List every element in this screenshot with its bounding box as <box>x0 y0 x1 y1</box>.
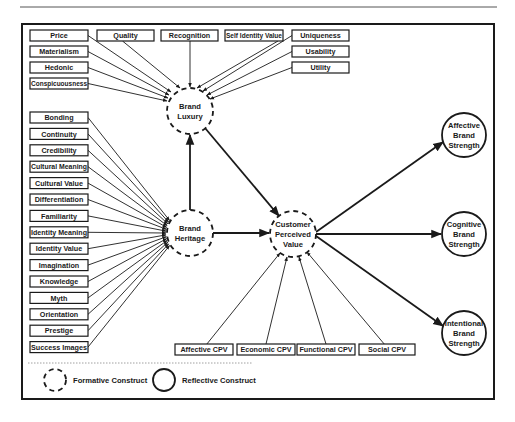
indicator-label: Prestige <box>45 326 73 335</box>
construct-label: Intentional <box>445 319 483 328</box>
indicator-box-conspicuousness: Conspicuousness <box>30 78 88 89</box>
indicator-label: Utility <box>311 63 331 72</box>
indicator-box-identity-meaning: Identity Meaning <box>30 227 88 238</box>
indicator-label: Usability <box>306 47 336 56</box>
construct-label: Affective <box>448 121 480 130</box>
indicator-label: Success Images <box>31 343 87 352</box>
indicator-box-imagination: Imagination <box>30 260 88 271</box>
indicator-label: Bonding <box>44 113 73 122</box>
construct-customer-perceived-value: CustomerPerceivedValue <box>270 211 316 257</box>
indicator-box-cultural-meaning: Cultural Meaning <box>30 161 88 172</box>
indicator-box-self-identity-value: Self Identity Value <box>225 30 283 41</box>
indicator-box-social-cpv: Social CPV <box>359 344 415 355</box>
indicator-label: Price <box>50 31 68 40</box>
construct-cognitive-brand-strength: CognitiveBrandStrength <box>442 212 486 256</box>
indicator-label: Materialism <box>39 47 79 56</box>
indicator-label: Social CPV <box>368 345 406 354</box>
construct-label: Cognitive <box>447 220 482 229</box>
construct-label: Strength <box>448 240 480 249</box>
indicator-label: Conspicuousness <box>31 79 87 88</box>
construct-label: Brand <box>179 102 201 111</box>
indicator-label: Differentiation <box>35 195 84 204</box>
indicator-label: Knowledge <box>40 277 78 286</box>
indicator-label: Orientation <box>40 310 78 319</box>
indicator-box-hedonic: Hedonic <box>30 62 88 73</box>
construct-intentional-brand-strength: IntentionalBrandStrength <box>442 311 486 355</box>
construct-label: Customer <box>275 220 310 229</box>
reflective-construct-legend-icon <box>153 369 175 391</box>
construct-label: Value <box>283 240 303 249</box>
indicator-label: Affective CPV <box>180 345 227 354</box>
construct-label: Heritage <box>175 234 205 243</box>
indicator-label: Recognition <box>169 31 211 40</box>
formative-construct-legend-icon <box>44 369 66 391</box>
indicator-box-differentiation: Differentiation <box>30 194 88 205</box>
indicator-box-utility: Utility <box>292 62 349 73</box>
indicator-box-familiarity: Familiarity <box>30 210 88 221</box>
indicator-label: Functional CPV <box>299 345 352 354</box>
indicator-label: Credibility <box>41 146 76 155</box>
indicator-label: Cultural Meaning <box>31 162 87 171</box>
indicator-box-knowledge: Knowledge <box>30 276 88 287</box>
construct-label: Strength <box>448 339 480 348</box>
construct-brand-heritage: BrandHeritage <box>167 210 213 256</box>
construct-brand-luxury: BrandLuxury <box>167 88 213 134</box>
construct-label: Strength <box>448 141 480 150</box>
indicator-label: Familiarity <box>41 212 77 221</box>
indicator-label: Identity Value <box>36 244 82 253</box>
indicator-label: Uniqueness <box>300 31 341 40</box>
indicator-label: Self Identity Value <box>226 31 282 40</box>
indicator-box-cultural-value: Cultural Value <box>30 178 88 189</box>
indicator-box-bonding: Bonding <box>30 112 88 123</box>
indicator-box-myth: Myth <box>30 292 88 303</box>
construct-label: Brand <box>453 329 475 338</box>
structural-model-diagram: PriceMaterialismHedonicConspicuousnessQu… <box>0 0 515 422</box>
construct-label: Brand <box>453 131 475 140</box>
indicator-box-continuity: Continuity <box>30 128 88 139</box>
indicator-box-price: Price <box>30 30 88 41</box>
indicator-label: Identity Meaning <box>31 228 87 237</box>
construct-label: Brand <box>453 230 475 239</box>
construct-label: Perceived <box>275 230 311 239</box>
reflective-construct-legend-label: Reflective Construct <box>182 376 256 385</box>
indicator-label: Economic CPV <box>240 345 291 354</box>
indicator-box-functional-cpv: Functional CPV <box>297 344 355 355</box>
indicator-box-economic-cpv: Economic CPV <box>237 344 295 355</box>
indicator-box-identity-value: Identity Value <box>30 243 88 254</box>
indicator-label: Myth <box>51 294 68 303</box>
indicator-box-uniqueness: Uniqueness <box>292 30 349 41</box>
indicator-label: Continuity <box>41 130 77 139</box>
indicator-box-usability: Usability <box>292 46 349 57</box>
formative-construct-legend-label: Formative Construct <box>73 376 148 385</box>
indicator-box-recognition: Recognition <box>161 30 218 41</box>
indicator-box-success-images: Success Images <box>30 342 88 353</box>
indicator-label: Cultural Value <box>35 179 83 188</box>
construct-label: Luxury <box>177 112 203 121</box>
construct-affective-brand-strength: AffectiveBrandStrength <box>442 113 486 157</box>
indicator-label: Hedonic <box>45 63 73 72</box>
indicator-box-affective-cpv: Affective CPV <box>175 344 233 355</box>
indicator-label: Imagination <box>39 261 79 270</box>
indicator-box-materialism: Materialism <box>30 46 88 57</box>
indicator-box-orientation: Orientation <box>30 309 88 320</box>
indicator-box-prestige: Prestige <box>30 325 88 336</box>
indicator-label: Quality <box>113 31 137 40</box>
construct-label: Brand <box>179 224 201 233</box>
indicator-box-quality: Quality <box>97 30 154 41</box>
indicator-box-credibility: Credibility <box>30 145 88 156</box>
